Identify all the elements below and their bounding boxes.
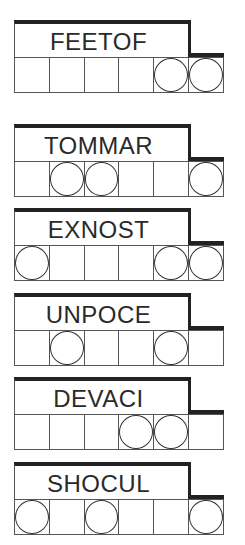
answer-cell-3[interactable] [85, 500, 120, 534]
answer-cell-6[interactable] [189, 415, 224, 449]
answer-cell-5[interactable] [154, 415, 189, 449]
answer-cell-5[interactable] [154, 162, 189, 196]
circle-marker-icon [189, 500, 223, 534]
scrambled-word-box: DEVACI [14, 377, 191, 414]
circle-marker-icon [189, 162, 223, 196]
scrambled-word: FEETOF [50, 30, 147, 54]
answer-cells [14, 57, 224, 93]
answer-cell-4[interactable] [119, 415, 154, 449]
answer-cells [14, 330, 224, 366]
answer-cell-3[interactable] [85, 415, 120, 449]
circle-marker-icon [50, 331, 84, 365]
answer-cell-1[interactable] [15, 500, 50, 534]
answer-cell-4[interactable] [119, 331, 154, 365]
circle-marker-icon [154, 331, 188, 365]
answer-cells [14, 245, 224, 281]
answer-cell-2[interactable] [50, 415, 85, 449]
answer-cell-1[interactable] [15, 331, 50, 365]
answer-cell-2[interactable] [50, 58, 85, 92]
answer-cell-6[interactable] [189, 162, 224, 196]
answer-cell-1[interactable] [15, 415, 50, 449]
circle-marker-icon [15, 246, 49, 280]
answer-cell-2[interactable] [50, 331, 85, 365]
scrambled-word: DEVACI [53, 387, 144, 411]
jumble-puzzle-5: DEVACI [14, 377, 224, 453]
circle-marker-icon [154, 58, 188, 92]
jumble-puzzle-3: EXNOST [14, 208, 224, 284]
answer-cell-4[interactable] [119, 500, 154, 534]
scrambled-word-box: FEETOF [14, 20, 191, 57]
answer-cell-2[interactable] [50, 500, 85, 534]
circle-marker-icon [189, 246, 223, 280]
answer-cell-2[interactable] [50, 246, 85, 280]
answer-cell-6[interactable] [189, 500, 224, 534]
scrambled-word: TOMMAR [44, 134, 153, 158]
answer-cell-5[interactable] [154, 500, 189, 534]
jumble-puzzle-6: SHOCUL [14, 462, 224, 538]
scrambled-word-box: UNPOCE [14, 293, 191, 330]
answer-cell-5[interactable] [154, 246, 189, 280]
scrambled-word-box: SHOCUL [14, 462, 191, 499]
circle-marker-icon [85, 500, 119, 534]
answer-cell-1[interactable] [15, 246, 50, 280]
scrambled-word: EXNOST [48, 218, 150, 242]
answer-cells [14, 499, 224, 535]
jumble-puzzle-2: TOMMAR [14, 124, 224, 200]
answer-cell-1[interactable] [15, 58, 50, 92]
scrambled-word: UNPOCE [46, 303, 152, 327]
circle-marker-icon [154, 246, 188, 280]
circle-marker-icon [15, 500, 49, 534]
circle-marker-icon [85, 162, 119, 196]
circle-marker-icon [119, 415, 153, 449]
answer-cell-3[interactable] [85, 246, 120, 280]
circle-marker-icon [154, 415, 188, 449]
circle-marker-icon [189, 58, 223, 92]
circle-marker-icon [50, 162, 84, 196]
answer-cell-1[interactable] [15, 162, 50, 196]
answer-cells [14, 414, 224, 450]
jumble-puzzle-4: UNPOCE [14, 293, 224, 369]
answer-cell-6[interactable] [189, 331, 224, 365]
scrambled-word: SHOCUL [47, 472, 150, 496]
answer-cell-3[interactable] [85, 58, 120, 92]
answer-cells [14, 161, 224, 197]
answer-cell-5[interactable] [154, 331, 189, 365]
answer-cell-6[interactable] [189, 246, 224, 280]
answer-cell-3[interactable] [85, 162, 120, 196]
answer-cell-4[interactable] [119, 162, 154, 196]
scrambled-word-box: TOMMAR [14, 124, 191, 161]
answer-cell-2[interactable] [50, 162, 85, 196]
jumble-puzzle-1: FEETOF [14, 20, 224, 96]
answer-cell-4[interactable] [119, 246, 154, 280]
answer-cell-5[interactable] [154, 58, 189, 92]
answer-cell-3[interactable] [85, 331, 120, 365]
scrambled-word-box: EXNOST [14, 208, 191, 245]
answer-cell-4[interactable] [119, 58, 154, 92]
answer-cell-6[interactable] [189, 58, 224, 92]
